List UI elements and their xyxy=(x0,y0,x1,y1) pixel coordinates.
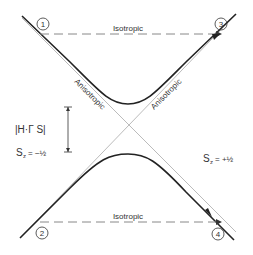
sz-minus-label: S xyxy=(16,147,23,158)
sz-plus-value: = +½ xyxy=(215,155,234,164)
sz-plus-label: S xyxy=(203,153,210,164)
point-4-label: 4 xyxy=(216,230,221,239)
isotropic-label-bottom: Isotropic xyxy=(113,212,143,221)
level-crossing-diagram: 1 3 2 4 Isotropic Isotropic Anisotropic … xyxy=(0,0,253,255)
arrow-icon xyxy=(212,34,220,40)
point-1-label: 1 xyxy=(41,20,46,29)
arrow-up-icon xyxy=(66,107,70,111)
point-3-label: 3 xyxy=(219,20,224,29)
svg-text:z: z xyxy=(23,153,26,159)
arrow-down-icon xyxy=(66,148,70,152)
lower-adiabatic-curve xyxy=(20,154,234,240)
isotropic-label-top: Isotropic xyxy=(113,24,143,33)
sz-minus-value: = −½ xyxy=(28,149,47,158)
svg-text:z: z xyxy=(210,159,213,165)
gap-label: |H·Γ S| xyxy=(15,124,46,135)
point-2-label: 2 xyxy=(40,229,45,238)
